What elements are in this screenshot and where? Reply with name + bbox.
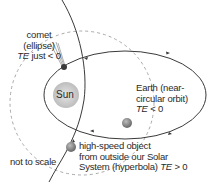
not-to-scale-note: not to scale [10,157,56,168]
te-symbol: TE [17,50,29,61]
hyperbola-label-line3: System (hyperbola) TE > 0 [79,162,187,173]
earth-label-line1: Earth (near- [136,83,188,94]
hyperbola-label-line1: high-speed object [79,141,187,152]
te-relation: just < 0 [29,50,61,61]
earth-icon [122,118,132,128]
te-relation: > 0 [172,161,187,172]
te-relation: < 0 [148,103,163,114]
arrow-icon [166,52,170,55]
earth-label-line3: TE < 0 [136,104,188,115]
te-symbol: TE [136,103,148,114]
high-speed-object-icon [66,142,76,152]
comet-label-line3: TE just < 0 [14,51,64,62]
earth-label: Earth (near- circular orbit) TE < 0 [136,83,188,115]
hyperbola-label-text: System (hyperbola) [79,161,160,172]
te-symbol: TE [160,161,172,172]
arrow-icon [90,130,94,133]
hyperbola-object-label: high-speed object from outside our Solar… [79,141,187,173]
comet-label: comet (ellipse) TE just < 0 [14,30,64,62]
arrow-icon [84,57,88,60]
comet-icon [61,64,67,70]
sun-label: Sun [56,89,74,100]
comet-label-line1: comet [14,30,64,41]
